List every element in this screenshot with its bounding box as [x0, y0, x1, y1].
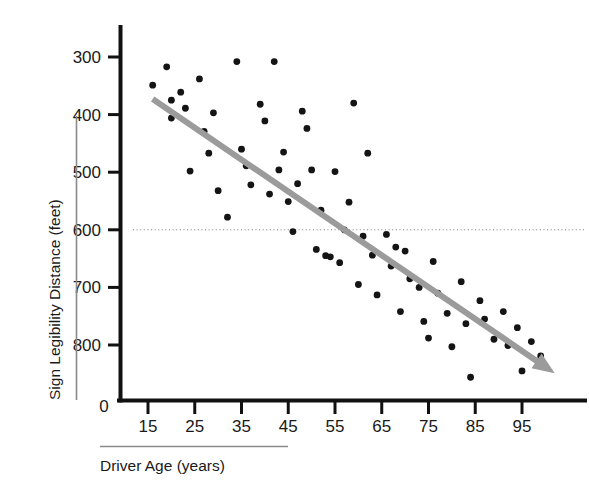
data-point [196, 75, 203, 82]
data-point [336, 259, 343, 266]
data-point [458, 278, 465, 285]
data-point [467, 374, 474, 381]
data-point [528, 338, 535, 345]
data-point [280, 149, 287, 156]
scatter-plot-figure: 800700600500400300 152535455565758595 Si… [0, 0, 589, 495]
data-point [238, 146, 245, 153]
data-point [266, 191, 273, 198]
data-point [425, 335, 432, 342]
data-point [299, 108, 306, 115]
data-point [285, 198, 292, 205]
x-axis-title: Driver Age (years) [100, 457, 225, 474]
x-tick-label: 15 [139, 417, 158, 436]
data-point [304, 125, 311, 132]
data-point [448, 343, 455, 350]
x-tick-label: 95 [513, 417, 532, 436]
x-tick-label: 25 [185, 417, 204, 436]
data-point [271, 58, 278, 65]
data-point [327, 253, 334, 260]
data-point [514, 324, 521, 331]
data-point [332, 168, 339, 175]
data-point [182, 105, 189, 112]
data-point [350, 100, 357, 107]
data-point [257, 101, 264, 108]
data-point [168, 97, 175, 104]
data-point [477, 297, 484, 304]
x-tick-label: 35 [232, 417, 251, 436]
data-point [430, 258, 437, 265]
data-point [383, 231, 390, 238]
data-point [392, 244, 399, 251]
data-point [313, 246, 320, 253]
data-point [444, 310, 451, 317]
data-point [276, 167, 283, 174]
data-point [364, 150, 371, 157]
data-point [224, 214, 231, 221]
data-point [397, 308, 404, 315]
data-point [215, 187, 222, 194]
data-point [163, 63, 170, 70]
x-tick-label: 65 [372, 417, 391, 436]
y-axis-title: Sign Legibility Distance (feet) [46, 199, 63, 400]
data-point [374, 291, 381, 298]
data-point [149, 82, 156, 89]
data-point [177, 89, 184, 96]
origin-tick-label: 0 [99, 397, 108, 416]
data-point [187, 168, 194, 175]
data-point [346, 199, 353, 206]
data-point [500, 308, 507, 315]
data-point [294, 180, 301, 187]
data-point [308, 167, 315, 174]
data-point [261, 118, 268, 125]
data-point [420, 318, 427, 325]
y-tick-label: 300 [73, 48, 101, 67]
data-point [290, 228, 297, 235]
data-point [463, 320, 470, 327]
x-tick-label: 75 [419, 417, 438, 436]
data-point [205, 150, 212, 157]
data-point [519, 368, 526, 375]
data-point [210, 109, 217, 116]
data-point [402, 248, 409, 255]
data-point [247, 181, 254, 188]
data-point [233, 58, 240, 65]
x-tick-label: 45 [279, 417, 298, 436]
x-tick-label: 85 [466, 417, 485, 436]
chart-canvas: 800700600500400300 152535455565758595 Si… [0, 0, 589, 495]
data-point [355, 281, 362, 288]
x-tick-label: 55 [326, 417, 345, 436]
